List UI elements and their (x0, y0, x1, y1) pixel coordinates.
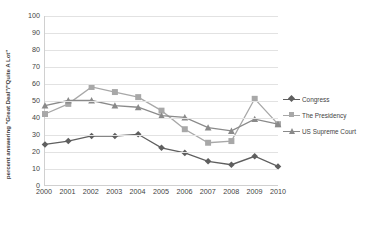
y-axis-tick-label: 80 (20, 46, 40, 53)
triangle-marker (283, 126, 300, 136)
diamond-marker (205, 158, 212, 165)
square-marker (42, 111, 48, 117)
y-axis-tick-label: 50 (20, 97, 40, 104)
square-marker (182, 126, 188, 132)
gridline (45, 67, 278, 68)
gridline (45, 33, 278, 34)
y-axis-tick-label: 90 (20, 29, 40, 36)
legend-label: The Presidency (302, 112, 346, 119)
diamond-marker (42, 141, 49, 148)
x-axis-tick-label: 2009 (247, 188, 263, 197)
square-marker (135, 94, 141, 100)
y-axis-tick-label: 30 (20, 131, 40, 138)
x-axis-tick-label: 2006 (176, 188, 192, 197)
diamond-marker (228, 161, 235, 168)
legend-label: Congress (302, 96, 329, 103)
plot-area (44, 16, 278, 186)
y-axis-tick-label: 10 (20, 165, 40, 172)
y-axis-tick-label: 20 (20, 148, 40, 155)
x-axis-tick-label: 2000 (36, 188, 52, 197)
legend-item[interactable]: The Presidency (283, 107, 373, 123)
gridline (45, 16, 278, 17)
gridline (45, 169, 278, 170)
diamond-marker (158, 145, 165, 152)
square-marker (205, 140, 211, 146)
gridline (45, 84, 278, 85)
x-axis-tick-label: 2008 (223, 188, 239, 197)
diamond-marker (251, 153, 258, 160)
diamond-marker (283, 94, 300, 104)
gridline (45, 101, 278, 102)
y-axis-tick-label: 70 (20, 63, 40, 70)
x-axis-tick-label: 2005 (153, 188, 169, 197)
y-axis-tick-label: 40 (20, 114, 40, 121)
y-axis-tick-label: 100 (20, 12, 40, 19)
legend-item[interactable]: US Supreme Court (283, 123, 373, 139)
gridline (45, 135, 278, 136)
y-axis-title: percent answering "Great Deal"/"Quite A … (0, 0, 14, 229)
x-axis-tick-label: 2002 (83, 188, 99, 197)
x-axis-tick-label: 2010 (270, 188, 286, 197)
legend-item[interactable]: Congress (283, 91, 373, 107)
square-marker (112, 89, 118, 95)
square-marker (228, 138, 234, 144)
gridline (45, 50, 278, 51)
line-chart: percent answering "Great Deal"/"Quite A … (0, 0, 374, 229)
square-marker (283, 110, 300, 120)
legend-label: US Supreme Court (302, 128, 356, 135)
x-axis-tick-label: 2007 (200, 188, 216, 197)
x-axis-tick-label: 2001 (59, 188, 75, 197)
y-axis-tick-label: 60 (20, 80, 40, 87)
series-congress (42, 131, 282, 170)
chart-legend: CongressThe PresidencyUS Supreme Court (283, 91, 373, 139)
gridline (45, 152, 278, 153)
x-axis-tick-labels: 2000200120022003200420052006200720082009… (44, 188, 278, 202)
x-axis-tick-label: 2003 (106, 188, 122, 197)
diamond-marker (65, 138, 72, 145)
gridline (45, 118, 278, 119)
x-axis-tick-label: 2004 (130, 188, 146, 197)
